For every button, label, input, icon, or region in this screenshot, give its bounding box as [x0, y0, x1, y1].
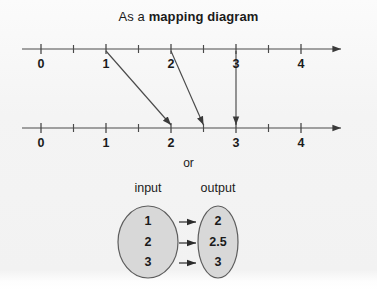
input-value-3: 3 [126, 255, 170, 269]
input-value-2: 2 [126, 235, 170, 249]
bottom-axis-label-4: 4 [289, 136, 313, 150]
bottom-axis-label-3: 3 [224, 136, 248, 150]
input-heading: input [113, 181, 183, 195]
top-axis-label-2: 2 [159, 57, 183, 71]
bottom-axis-label-1: 1 [94, 136, 118, 150]
output-heading: output [183, 181, 253, 195]
top-axis-label-0: 0 [29, 57, 53, 71]
top-axis-label-4: 4 [289, 57, 313, 71]
top-axis-label-3: 3 [224, 57, 248, 71]
output-value-2: 2.5 [196, 235, 240, 249]
output-value-3: 3 [196, 255, 240, 269]
input-value-1: 1 [126, 214, 170, 228]
diagram-canvas [0, 0, 377, 290]
mapping-diagram-figure: As a mapping diagram 01234 01234 or inpu… [0, 0, 377, 290]
bottom-axis-label-0: 0 [29, 136, 53, 150]
bottom-axis-label-2: 2 [159, 136, 183, 150]
output-value-1: 2 [196, 214, 240, 228]
or-label: or [0, 156, 377, 170]
top-axis-label-1: 1 [94, 57, 118, 71]
